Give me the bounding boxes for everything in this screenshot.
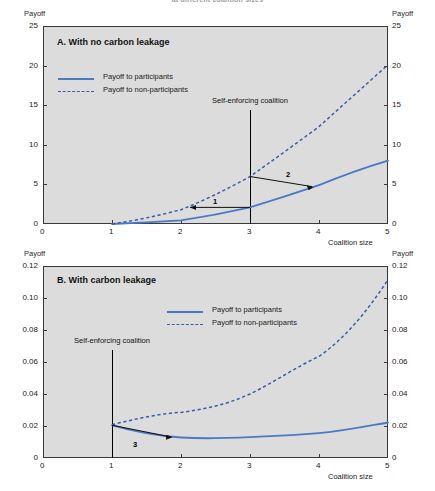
panel-a-y-axis-title-left: Payoff <box>24 9 45 18</box>
chart-panel-a: Payoff Payoff 25 20 15 10 5 0 25 20 15 1… <box>0 18 435 250</box>
panel-b-curves <box>0 254 435 491</box>
panel-a-annotation-1: 1 <box>213 197 217 206</box>
panel-b-annotation-3: 3 <box>133 440 137 449</box>
panel-a-annotation-2: 2 <box>286 170 290 179</box>
figure-title: at different coalition sizes <box>0 0 435 5</box>
panel-a-curves <box>0 18 435 250</box>
panel-a-y-axis-title-right: Payoff <box>392 9 413 18</box>
chart-panel-b: Payoff Payoff 0.12 0.10 0.08 0.06 0.04 0… <box>0 254 435 491</box>
